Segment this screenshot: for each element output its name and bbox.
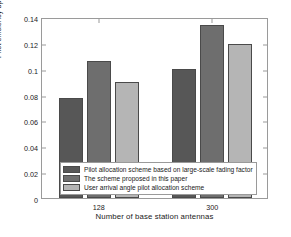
y-tick-label: 0.1	[28, 66, 42, 75]
legend-swatch	[63, 175, 80, 182]
bar-chart-figure: Pilot efficiency bps/Hz 00.020.040.060.0…	[0, 0, 291, 237]
y-tick-mark	[42, 174, 46, 175]
y-tick-mark	[42, 70, 46, 71]
legend-item: Pilot allocation scheme based on large-s…	[63, 165, 253, 174]
y-tick-mark	[263, 44, 267, 45]
legend-label: Pilot allocation scheme based on large-s…	[84, 165, 253, 174]
y-tick-label: 0.04	[24, 144, 42, 153]
y-tick-mark	[263, 148, 267, 149]
y-tick-label: 0.02	[24, 170, 42, 179]
legend-label: User arrival angle pilot allocation sche…	[84, 183, 204, 192]
y-tick-label: 0.06	[24, 118, 42, 127]
y-tick-label: 0.12	[24, 40, 42, 49]
plot-area: 00.020.040.060.080.10.120.14 128300 Pilo…	[41, 18, 268, 199]
y-tick-mark	[42, 44, 46, 45]
x-axis-label: Number of base station antennas	[41, 212, 268, 221]
y-tick-mark	[42, 96, 46, 97]
y-tick-mark	[42, 148, 46, 149]
legend-label: The scheme proposed in this paper	[84, 174, 187, 183]
y-tick-label: 0.08	[24, 92, 42, 101]
y-tick-mark	[263, 96, 267, 97]
y-tick-label: 0.14	[24, 15, 42, 24]
legend-swatch	[63, 166, 80, 173]
y-axis-label: Pilot efficiency bps/Hz	[0, 0, 3, 58]
y-tick-label: 0	[34, 196, 42, 205]
y-tick-mark	[263, 174, 267, 175]
x-tick-mark	[212, 19, 213, 23]
y-tick-mark	[263, 122, 267, 123]
x-tick-label: 300	[206, 198, 218, 212]
y-tick-mark	[42, 122, 46, 123]
x-tick-mark	[98, 19, 99, 23]
legend-item: The scheme proposed in this paper	[63, 174, 253, 183]
x-tick-label: 128	[93, 198, 105, 212]
legend-swatch	[63, 184, 80, 191]
chart-legend: Pilot allocation scheme based on large-s…	[60, 162, 257, 195]
y-tick-mark	[263, 70, 267, 71]
legend-item: User arrival angle pilot allocation sche…	[63, 183, 253, 192]
